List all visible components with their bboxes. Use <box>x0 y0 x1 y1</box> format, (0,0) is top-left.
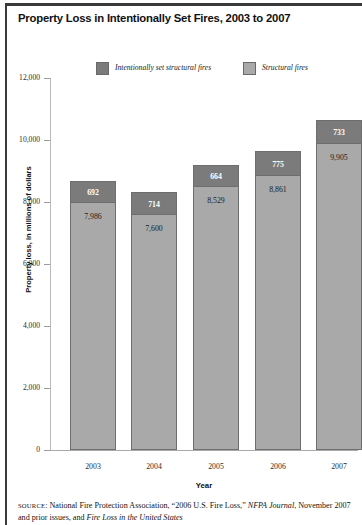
bar-value-label-structural: 7,600 <box>132 224 176 233</box>
y-axis-tick-label: 4,000 <box>0 321 40 330</box>
x-axis-tick-label: 2006 <box>255 462 301 471</box>
source-line1-text: : National Fire Protection Association, … <box>45 501 248 510</box>
chart-title: Property Loss in Intentionally Set Fires… <box>18 12 348 24</box>
bar-value-label-intentionally-set: 775 <box>256 159 300 168</box>
bar-group[interactable]: 7758,861 <box>255 151 301 450</box>
legend-label-intentionally-set: Intentionally set structural fires <box>115 63 211 72</box>
x-axis-label: Year <box>50 481 358 490</box>
y-axis-tick-label: 0 <box>0 445 40 454</box>
frame-top-rule <box>5 3 362 6</box>
y-axis-tick-label: 2,000 <box>0 383 40 392</box>
bar-group[interactable]: 7147,600 <box>131 192 177 450</box>
bar-value-label-intentionally-set: 664 <box>194 171 238 180</box>
y-axis-tick-label: 10,000 <box>0 135 40 144</box>
x-axis-tick-label: 2005 <box>193 462 239 471</box>
source-line1-italic: NFPA <box>248 501 267 510</box>
source-line2-italic-a: Journal <box>269 501 294 510</box>
bar-value-label-intentionally-set: 733 <box>317 128 361 137</box>
legend-label-structural: Structural fires <box>262 63 308 72</box>
bar-segment-structural[interactable]: 7,600 <box>131 214 177 450</box>
y-axis-tick-label: 6,000 <box>0 259 40 268</box>
bar-segment-intentionally-set[interactable]: 733 <box>316 120 362 143</box>
y-axis-tick-label: 12,000 <box>0 73 40 82</box>
source-note: SOURCE: National Fire Protection Associa… <box>18 500 354 523</box>
bar-group[interactable]: 6648,529 <box>193 165 239 450</box>
chart-legend: Intentionally set structural fires Struc… <box>96 61 346 79</box>
x-axis-tick-label: 2003 <box>70 462 116 471</box>
source-line2-italic-b: Fire Loss in the United States <box>87 513 183 522</box>
bar-segment-structural[interactable]: 8,861 <box>255 175 301 450</box>
figure-container: Property Loss in Intentionally Set Fires… <box>0 0 362 525</box>
source-prefix: SOURCE <box>18 502 45 509</box>
x-axis-tick-label: 2004 <box>131 462 177 471</box>
bar-segment-structural[interactable]: 8,529 <box>193 186 239 450</box>
bar-segment-intentionally-set[interactable]: 664 <box>193 165 239 186</box>
bar-segment-intentionally-set[interactable]: 775 <box>255 151 301 175</box>
plot-area: 6927,9867147,6006648,5297758,8617339,905 <box>50 78 358 450</box>
bar-group[interactable]: 7339,905 <box>316 120 362 450</box>
bar-value-label-intentionally-set: 714 <box>132 199 176 208</box>
bar-segment-structural[interactable]: 9,905 <box>316 143 362 450</box>
x-axis-tick-label: 2007 <box>316 462 362 471</box>
bar-value-label-structural: 9,905 <box>317 153 361 162</box>
bar-value-label-structural: 8,861 <box>256 185 300 194</box>
y-axis-tick-label: 8,000 <box>0 197 40 206</box>
bar-value-label-structural: 7,986 <box>71 212 115 221</box>
legend-swatch-structural <box>243 62 256 75</box>
bar-value-label-intentionally-set: 692 <box>71 188 115 197</box>
legend-swatch-intentionally-set <box>96 62 109 75</box>
bar-segment-structural[interactable]: 7,986 <box>70 202 116 450</box>
bar-segment-intentionally-set[interactable]: 714 <box>131 192 177 214</box>
bar-group[interactable]: 6927,986 <box>70 181 116 450</box>
bar-segment-intentionally-set[interactable]: 692 <box>70 181 116 202</box>
y-axis-tick <box>44 450 50 451</box>
bar-value-label-structural: 8,529 <box>194 196 238 205</box>
x-axis-line <box>50 450 358 451</box>
y-axis-label: Property loss, in millions of dollars <box>24 135 33 325</box>
